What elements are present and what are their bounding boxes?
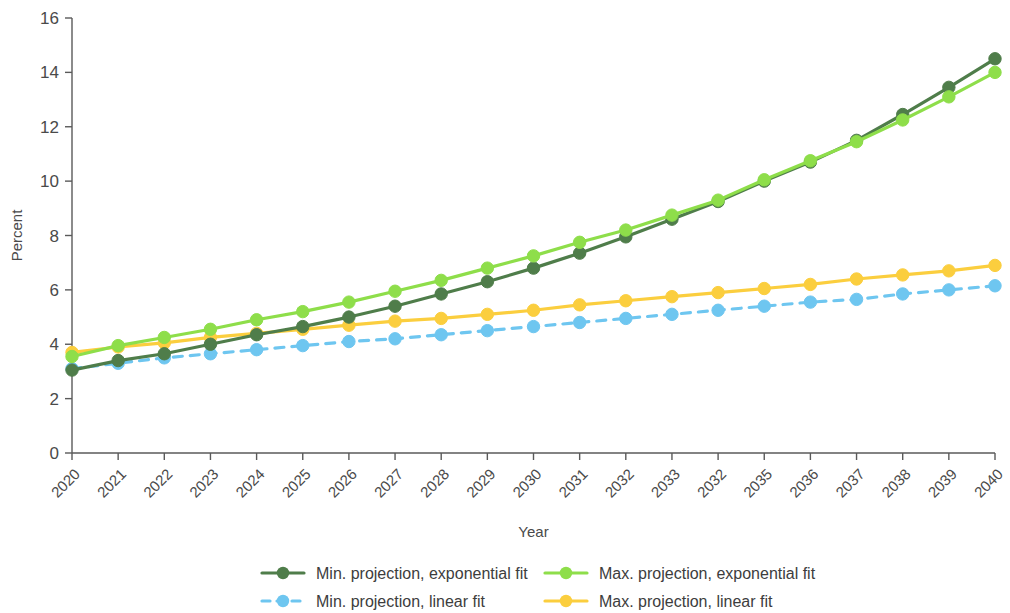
- data-point: [435, 274, 447, 286]
- data-point: [481, 324, 493, 336]
- data-point: [620, 312, 632, 324]
- data-point: [943, 284, 955, 296]
- data-point: [250, 343, 262, 355]
- chart-legend: Min. projection, exponential fitMin. pro…: [262, 565, 816, 610]
- x-axis-tick-label: 2032: [601, 465, 637, 501]
- y-axis-tick-label: 4: [50, 335, 59, 354]
- data-point: [158, 331, 170, 343]
- x-axis-tick-label: 2031: [555, 465, 591, 501]
- data-point: [712, 194, 724, 206]
- y-axis-tick-label: 14: [40, 63, 59, 82]
- data-point: [989, 53, 1001, 65]
- data-point: [112, 339, 124, 351]
- x-axis-tick-label: 2024: [232, 465, 268, 501]
- legend-item[interactable]: Max. projection, exponential fit: [545, 565, 816, 582]
- data-point: [989, 66, 1001, 78]
- x-axis-tick-label: 2030: [509, 465, 545, 501]
- data-point: [297, 305, 309, 317]
- data-point: [989, 280, 1001, 292]
- data-point: [481, 308, 493, 320]
- data-point: [527, 262, 539, 274]
- legend-marker: [560, 595, 572, 607]
- x-axis-tick-label: 2032: [694, 465, 730, 501]
- data-point: [804, 296, 816, 308]
- x-axis-tick-label: 2038: [878, 465, 914, 501]
- data-point: [758, 174, 770, 186]
- data-point: [620, 295, 632, 307]
- x-axis-title: Year: [518, 523, 548, 540]
- y-axis-tick-label: 0: [50, 444, 59, 463]
- data-point: [712, 304, 724, 316]
- legend-item[interactable]: Min. projection, linear fit: [262, 593, 486, 610]
- data-point: [343, 335, 355, 347]
- x-axis-tick-label: 2036: [786, 465, 822, 501]
- data-point: [250, 314, 262, 326]
- data-point: [66, 350, 78, 362]
- data-point: [758, 282, 770, 294]
- x-axis-tick-label: 2029: [463, 465, 499, 501]
- y-axis-tick-label: 8: [50, 227, 59, 246]
- data-point: [943, 91, 955, 103]
- data-point: [435, 288, 447, 300]
- x-axis-tick-label: 2023: [186, 465, 222, 501]
- legend-item[interactable]: Min. projection, exponential fit: [262, 565, 528, 582]
- x-axis-tick-label: 2022: [140, 465, 176, 501]
- series-1: [66, 66, 1001, 363]
- data-point: [343, 311, 355, 323]
- data-point: [204, 338, 216, 350]
- y-axis: 0246810121416: [40, 9, 72, 463]
- x-axis-tick-label: 2021: [94, 465, 130, 501]
- data-point: [573, 299, 585, 311]
- data-point: [620, 224, 632, 236]
- y-axis-tick-label: 12: [40, 118, 59, 137]
- chart-container: 0246810121416Percent20202021202220232024…: [0, 0, 1010, 613]
- data-point: [389, 333, 401, 345]
- data-point: [250, 329, 262, 341]
- data-point: [573, 236, 585, 248]
- x-axis-tick-label: 2040: [971, 465, 1007, 501]
- data-point: [389, 285, 401, 297]
- x-axis-tick-label: 2028: [417, 465, 453, 501]
- data-point: [943, 265, 955, 277]
- legend-label: Min. projection, linear fit: [316, 593, 486, 610]
- data-point: [297, 339, 309, 351]
- x-axis-tick-label: 2027: [371, 465, 407, 501]
- legend-label: Max. projection, exponential fit: [599, 565, 816, 582]
- y-axis-tick-label: 2: [50, 390, 59, 409]
- data-point: [850, 136, 862, 148]
- data-point: [112, 354, 124, 366]
- data-point: [297, 320, 309, 332]
- data-point: [573, 316, 585, 328]
- data-point: [481, 276, 493, 288]
- legend-item[interactable]: Max. projection, linear fit: [545, 593, 773, 610]
- y-axis-tick-label: 6: [50, 281, 59, 300]
- x-axis-tick-label: 2020: [48, 465, 84, 501]
- data-point: [897, 288, 909, 300]
- line-chart: 0246810121416Percent20202021202220232024…: [0, 0, 1010, 613]
- data-point: [897, 114, 909, 126]
- data-point: [527, 304, 539, 316]
- data-point: [712, 286, 724, 298]
- legend-label: Max. projection, linear fit: [599, 593, 773, 610]
- data-point: [758, 300, 770, 312]
- data-point: [666, 209, 678, 221]
- legend-label: Min. projection, exponential fit: [316, 565, 528, 582]
- legend-marker: [277, 595, 289, 607]
- legend-marker: [560, 567, 572, 579]
- x-axis-tick-label: 2039: [924, 465, 960, 501]
- data-point: [389, 300, 401, 312]
- data-point: [527, 250, 539, 262]
- data-point: [435, 312, 447, 324]
- x-axis-tick-label: 2037: [832, 465, 868, 501]
- data-point: [666, 290, 678, 302]
- data-point: [389, 315, 401, 327]
- x-axis-tick-label: 2026: [324, 465, 360, 501]
- data-point: [435, 329, 447, 341]
- data-point: [804, 278, 816, 290]
- data-point: [66, 364, 78, 376]
- data-point: [158, 348, 170, 360]
- y-axis-title: Percent: [8, 209, 25, 262]
- data-point: [850, 273, 862, 285]
- data-point: [481, 262, 493, 274]
- data-point: [804, 155, 816, 167]
